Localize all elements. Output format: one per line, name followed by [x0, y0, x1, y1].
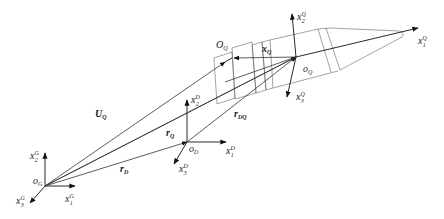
axis-g3-arrow: [30, 186, 45, 203]
vector-uq-arrow: [45, 62, 225, 186]
label-xq3: xQ3: [295, 91, 305, 104]
vectors: [45, 57, 296, 186]
label-xd3: xD3: [178, 163, 188, 176]
label-og: oG: [33, 175, 43, 187]
vector-rdq-arrow: [187, 57, 296, 142]
label-xg3: xG3: [15, 195, 25, 208]
label-oq: oQ: [303, 63, 313, 75]
axis-q1-arrow: [296, 28, 418, 57]
axis-q2-arrow: [292, 14, 296, 57]
label-point-oq: OQ: [216, 39, 228, 51]
label-rd: rD: [120, 163, 129, 175]
label-rdq: rDQ: [234, 108, 247, 120]
label-xq1: xQ1: [417, 35, 427, 48]
frame-q: [225, 14, 418, 97]
projectile-body: [214, 28, 403, 104]
label-rq: rQ: [166, 127, 175, 139]
vector-rd-arrow: [45, 142, 187, 186]
label-xd2: xD2: [190, 94, 200, 107]
vector-xq-arrow: [234, 57, 296, 58]
label-xq2: xQ2: [296, 11, 306, 24]
label-uq: UQ: [95, 108, 107, 120]
coordinate-frames-diagram: xG2 oG xG1 xG3 xD2 oD xD1 xD3 xQ2 oQ xQ1…: [0, 0, 444, 219]
label-xg1: xG1: [64, 193, 74, 206]
label-xg2: xG2: [29, 150, 39, 163]
label-od: oD: [189, 143, 199, 155]
label-xd1: xD1: [225, 145, 235, 158]
